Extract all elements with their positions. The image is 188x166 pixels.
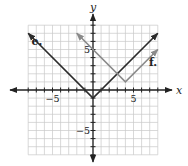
x-tick-label: −5	[45, 93, 59, 104]
x-tick-label: 5	[130, 93, 136, 104]
graph-label-f: f.	[149, 56, 157, 69]
x-axis-label: x	[176, 84, 183, 97]
y-tick-label: −5	[76, 125, 90, 136]
graph-label-e: e.	[31, 35, 42, 48]
y-axis-label: y	[89, 1, 97, 14]
axis-labels: e.f.xy−555−5	[31, 1, 183, 136]
y-tick-label: 5	[84, 44, 90, 55]
coordinate-plane: e.f.xy−555−5	[0, 0, 188, 166]
